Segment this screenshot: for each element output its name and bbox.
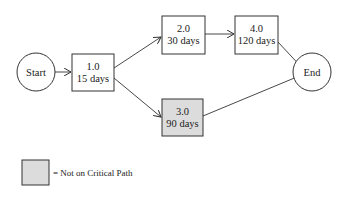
legend: = Not on Critical Path [22, 160, 133, 185]
legend-label: = Not on Critical Path [53, 168, 133, 178]
task-id: 3.0 [176, 106, 189, 117]
end-label: End [304, 67, 322, 78]
task-id: 4.0 [250, 23, 263, 34]
task-id: 2.0 [177, 23, 190, 34]
start-node: Start [17, 53, 55, 91]
task-node-1: 1.0 15 days [72, 54, 114, 91]
start-label: Start [26, 67, 46, 78]
task-duration: 30 days [167, 35, 199, 46]
task-node-4: 4.0 120 days [235, 16, 278, 54]
legend-swatch [22, 160, 49, 185]
edge-3-to-end [203, 74, 304, 116]
edge-1-to-2 [114, 37, 161, 68]
task-node-2: 2.0 30 days [162, 16, 205, 54]
end-node: End [293, 53, 331, 91]
task-node-3: 3.0 90 days [162, 99, 203, 136]
task-id: 1.0 [86, 61, 99, 72]
task-duration: 90 days [166, 118, 198, 129]
edge-1-to-3 [114, 78, 161, 117]
task-duration: 15 days [77, 73, 109, 84]
network-diagram: Start 1.0 15 days 2.0 30 days 4.0 120 da… [0, 0, 361, 199]
task-duration: 120 days [238, 35, 276, 46]
